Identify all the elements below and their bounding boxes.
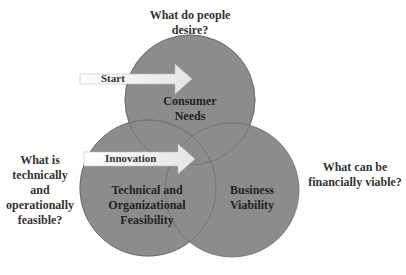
innovation-arrow-label: Innovation: [105, 152, 156, 164]
business-viability-question: What can be financially viable?: [305, 160, 405, 190]
consumer-needs-question: What do people desire?: [135, 8, 245, 38]
technical-feasibility-question: What is technically and operationally fe…: [5, 153, 75, 228]
consumer-needs-label: Consumer Needs: [150, 94, 230, 124]
start-arrow-label: Start: [101, 72, 125, 84]
business-viability-label: Business Viability: [212, 183, 292, 213]
venn-diagram: [0, 0, 406, 275]
technical-feasibility-label: Technical and Organizational Feasibility: [92, 183, 202, 228]
